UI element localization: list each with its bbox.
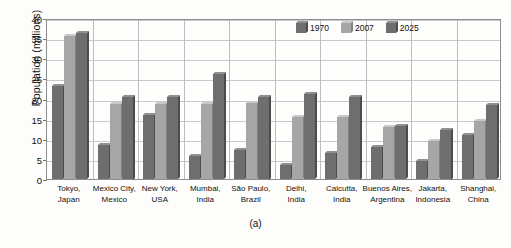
legend-swatch-side: [306, 21, 308, 33]
bar: [64, 36, 75, 179]
legend-label: 2007: [355, 23, 374, 33]
bar-face: [98, 145, 109, 179]
bar: [337, 117, 348, 179]
bar-face: [122, 97, 133, 180]
group-separator: [366, 20, 367, 179]
x-axis-label-line: Shanghai,: [448, 184, 510, 195]
bar-face: [167, 97, 178, 179]
bar-face: [337, 117, 348, 179]
y-axis-tick-label: 40: [14, 14, 42, 25]
legend-item: 2007: [341, 23, 374, 33]
bar: [201, 104, 212, 179]
legend-swatch-face: [341, 23, 351, 33]
bar: [110, 104, 121, 179]
legend-swatch: [296, 23, 306, 33]
bar-face: [201, 104, 212, 179]
bar-face: [395, 126, 406, 179]
bar-face: [143, 115, 154, 179]
bar: [474, 121, 485, 179]
bar: [234, 150, 245, 179]
bar-face: [349, 97, 360, 180]
bar: [280, 165, 291, 179]
bar-face: [64, 36, 75, 179]
bar-face: [110, 104, 121, 179]
bar-side: [451, 128, 453, 180]
bar-face: [440, 130, 451, 180]
chart-legend: 197020072025: [296, 23, 419, 33]
group-separator: [457, 20, 458, 179]
bar: [292, 117, 303, 179]
bar-side: [269, 95, 271, 180]
group-separator: [138, 20, 139, 179]
bar-side: [224, 72, 226, 179]
x-axis-label: Shanghai,China: [448, 184, 510, 205]
bar: [440, 130, 451, 180]
legend-item: 1970: [296, 23, 329, 33]
bar-face: [383, 127, 394, 179]
bar: [98, 145, 109, 179]
gridline: [47, 40, 500, 41]
y-axis-tick-label: 5: [14, 154, 42, 165]
bar: [246, 103, 257, 179]
bar: [143, 115, 154, 179]
bar-face: [258, 97, 269, 180]
y-axis-tick-label: 30: [14, 54, 42, 65]
legend-swatch: [341, 23, 351, 33]
plot-area: [46, 19, 501, 180]
bar: [122, 97, 133, 180]
bar-face: [325, 153, 336, 179]
bar: [258, 97, 269, 180]
bar-side: [133, 95, 135, 180]
gridline: [47, 80, 500, 81]
y-axis-tick-label: 25: [14, 74, 42, 85]
bar-face: [52, 86, 63, 179]
legend-swatch: [386, 23, 396, 33]
bar-face: [462, 135, 473, 179]
bar: [428, 141, 439, 179]
bar-face: [486, 105, 497, 179]
bar: [325, 153, 336, 179]
bar: [76, 33, 87, 179]
bar: [416, 161, 427, 179]
x-axis-category-labels: Tokyo,JapanMexico City,MexicoNew York,US…: [46, 184, 501, 212]
group-separator: [275, 20, 276, 179]
legend-swatch-face: [386, 23, 396, 33]
bar-face: [213, 74, 224, 179]
bar: [462, 135, 473, 179]
group-separator: [411, 20, 412, 179]
legend-swatch-side: [351, 21, 353, 33]
bar-face: [280, 165, 291, 179]
legend-swatch-face: [296, 23, 306, 33]
bar: [486, 105, 497, 179]
bar-side: [406, 124, 408, 179]
y-axis-tick-label: 35: [14, 34, 42, 45]
gridline: [47, 20, 500, 21]
y-axis-tick-label: 20: [14, 94, 42, 105]
bar-side: [315, 92, 317, 179]
gridline: [47, 60, 500, 61]
y-axis-tick-label: 15: [14, 114, 42, 125]
bar-face: [416, 161, 427, 179]
y-axis-tick-mark: [43, 180, 47, 181]
bar-face: [304, 94, 315, 179]
bar-face: [474, 121, 485, 179]
bar-face: [371, 147, 382, 179]
bar-face: [246, 103, 257, 179]
figure-caption: (a): [0, 218, 511, 229]
bar-side: [497, 103, 499, 179]
figure-panel-a: Population (millions) 0510152025303540 T…: [0, 0, 511, 248]
legend-label: 2025: [400, 23, 419, 33]
bar: [395, 126, 406, 179]
bar: [349, 97, 360, 180]
bar: [383, 127, 394, 179]
bar-face: [155, 104, 166, 179]
bar-face: [189, 156, 200, 179]
legend-item: 2025: [386, 23, 419, 33]
bar-side: [360, 95, 362, 180]
legend-label: 1970: [310, 23, 329, 33]
bar-face: [234, 150, 245, 179]
y-axis-tick-label: 10: [14, 134, 42, 145]
bar-face: [428, 141, 439, 179]
bar: [213, 74, 224, 179]
bar: [304, 94, 315, 179]
